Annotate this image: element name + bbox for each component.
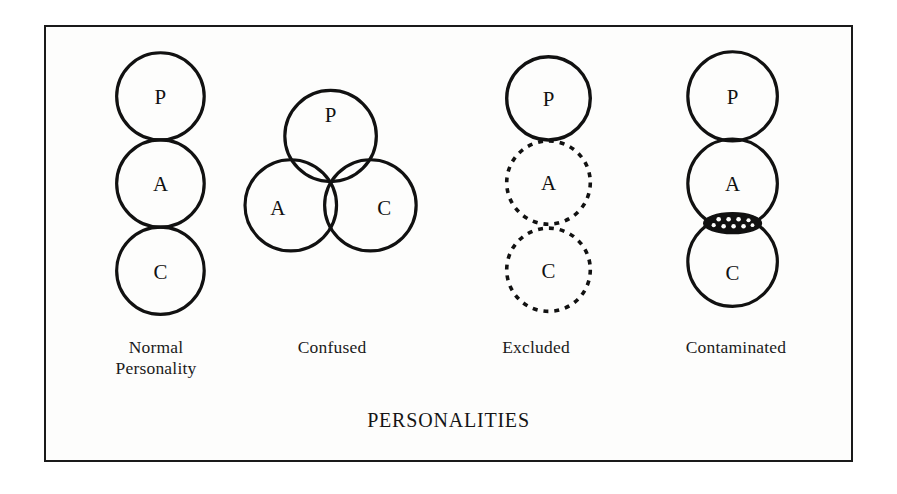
label-excluded-p: P (543, 87, 555, 111)
caption-confused: Confused (242, 337, 422, 358)
label-confused-a: A (270, 196, 285, 220)
circle-confused-a (245, 160, 337, 251)
personalities-diagram: P A C P A C P A C (46, 27, 851, 460)
label-contaminated-p: P (727, 85, 739, 109)
contamination-speck (716, 217, 721, 222)
contamination-speck (741, 224, 746, 229)
contamination-speck (736, 217, 741, 222)
contamination-lens (704, 213, 762, 234)
panel-excluded: P A C (507, 57, 591, 312)
caption-normal-personality: Normal Personality (66, 337, 246, 380)
label-excluded-a: A (541, 172, 556, 196)
contamination-speck (731, 224, 736, 229)
panel-confused: P A C (245, 90, 416, 251)
label-contaminated-c: C (726, 261, 740, 285)
contamination-speck (746, 218, 750, 222)
label-confused-p: P (325, 103, 337, 127)
contamination-speck (712, 223, 716, 227)
caption-excluded: Excluded (446, 337, 626, 358)
label-normal-a: A (153, 173, 168, 197)
circle-confused-c (325, 160, 417, 251)
contamination-speck (726, 217, 731, 222)
contamination-speck (721, 224, 726, 229)
caption-contaminated: Contaminated (631, 337, 841, 358)
figure-frame: P A C P A C P A C (44, 25, 853, 462)
figure-title: PERSONALITIES (46, 409, 851, 432)
label-normal-c: C (153, 260, 167, 284)
panel-contaminated: P A C (688, 52, 778, 307)
label-contaminated-a: A (725, 173, 740, 197)
contamination-speck (751, 223, 755, 227)
label-excluded-c: C (542, 259, 556, 283)
label-confused-c: C (377, 196, 391, 220)
contamination-lens-fill (704, 213, 762, 234)
label-normal-p: P (155, 85, 167, 109)
panel-normal: P A C (117, 53, 205, 315)
